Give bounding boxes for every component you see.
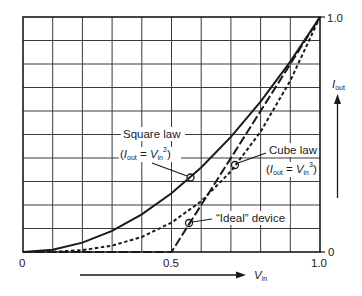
square-law-annotation: Square law (Iout = Vin2) bbox=[119, 127, 194, 181]
x-axis-arrow bbox=[80, 272, 246, 279]
ideal-device-leader bbox=[192, 219, 212, 222]
x-tick-label-0: 0 bbox=[19, 257, 25, 269]
y-tick-label-0: 0 bbox=[328, 246, 334, 258]
cube-law-annotation: Cube law (Iout = Vin3) bbox=[232, 143, 319, 177]
arrow-right-icon bbox=[236, 272, 246, 279]
cube-law-marker bbox=[232, 162, 239, 169]
x-tick-label-max: 1.0 bbox=[311, 257, 327, 269]
x-axis-label: Vin bbox=[254, 269, 267, 282]
y-axis-label: Iout bbox=[332, 78, 345, 91]
square-law-label: Square law bbox=[123, 128, 181, 140]
cube-law-label: Cube law bbox=[269, 144, 318, 156]
y-axis-arrow bbox=[334, 94, 341, 198]
y-tick-label-max: 1.0 bbox=[327, 12, 343, 24]
square-law-leader bbox=[152, 163, 187, 176]
x-tick-label-mid: 0.5 bbox=[163, 257, 179, 269]
ideal-device-label: “Ideal” device bbox=[216, 212, 285, 224]
chart-canvas: Square law (Iout = Vin2) Cube law (Iout … bbox=[0, 0, 362, 296]
arrow-up-icon bbox=[334, 94, 341, 104]
